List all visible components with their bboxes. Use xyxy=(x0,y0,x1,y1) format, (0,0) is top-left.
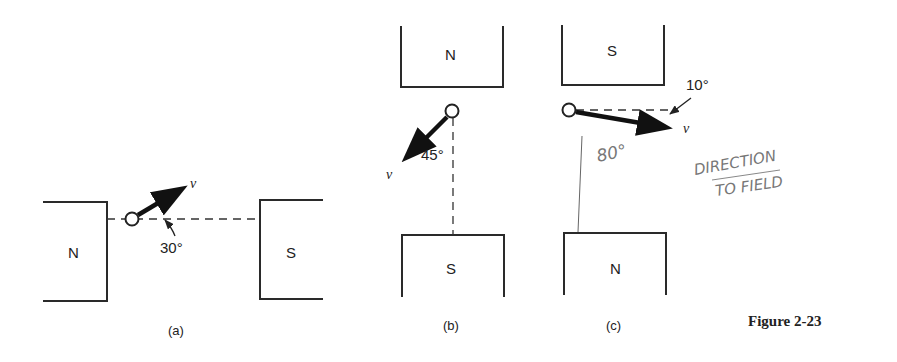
velocity-label: v xyxy=(190,176,197,191)
pole-label: S xyxy=(446,260,456,277)
magnet-south-top: S xyxy=(562,25,664,85)
velocity-arrow xyxy=(138,190,180,215)
pole-label: S xyxy=(286,244,296,261)
particle-circle xyxy=(446,105,459,118)
figure-title: Figure 2-23 xyxy=(748,313,821,329)
pole-label: N xyxy=(610,260,621,277)
panel-caption: (b) xyxy=(443,318,459,333)
angle-label: 10° xyxy=(686,76,709,93)
particle-circle xyxy=(126,213,139,226)
angle-pointer-arrow xyxy=(670,98,691,114)
particle-circle xyxy=(563,104,576,117)
magnet-south-right: S xyxy=(260,200,323,299)
panel-caption: (a) xyxy=(168,323,184,338)
panel-b: N S v 45° (b) xyxy=(386,26,504,333)
pole-label: N xyxy=(445,46,456,63)
panel-c: S N v 10° 80° (c) xyxy=(562,25,709,333)
panel-a: N S v 30° (a) xyxy=(43,176,323,338)
magnet-north-bottom: N xyxy=(564,233,666,295)
magnet-north-left: N xyxy=(43,202,107,301)
panel-caption: (c) xyxy=(606,318,621,333)
angle-label: 30° xyxy=(160,239,183,256)
magnet-north-top: N xyxy=(401,26,503,87)
handwritten-note: DIRECTION TO FIELD xyxy=(693,147,785,200)
pole-label: S xyxy=(607,42,617,59)
angle-label: 45° xyxy=(421,146,444,163)
pole-label: N xyxy=(68,244,79,261)
velocity-label: v xyxy=(386,167,393,182)
magnet-south-bottom: S xyxy=(402,235,504,297)
velocity-arrow xyxy=(576,112,664,127)
velocity-label: v xyxy=(683,121,690,136)
note-line-2: TO FIELD xyxy=(714,173,784,200)
pencil-field-line xyxy=(578,136,582,232)
figure-canvas: N S v 30° (a) N S xyxy=(0,0,897,362)
angle-pointer-arrow xyxy=(165,220,175,236)
handwritten-angle: 80° xyxy=(595,140,629,166)
